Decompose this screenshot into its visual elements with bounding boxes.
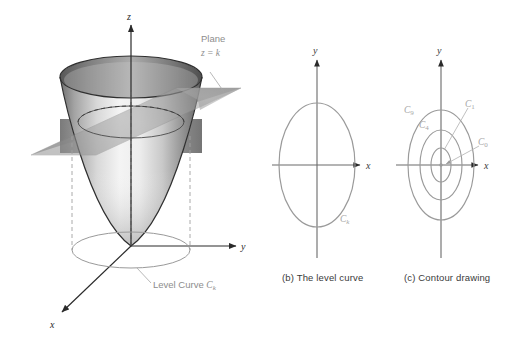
contour-C1-leader-line [444,108,468,150]
caption-panel-c: (c) Contour drawing [404,272,490,283]
panel-c-axis-x-label: x [483,160,489,171]
contour-C4-label: C4 [419,120,429,132]
panel-b-axis-x-label: x [365,160,371,171]
level-curve-label-text: Level Curve [153,279,204,290]
axis-x-label: x [49,319,55,330]
panel-c: x y C9 C4 C1 C0 [396,45,489,258]
level-curve-leader-line [137,268,151,283]
caption-panel-b: (b) The level curve [282,272,363,283]
panel-c-axis-y-label: y [436,45,442,56]
level-curve-subscript: k [213,284,217,292]
panel-b-curve-subscript: k [346,218,350,226]
axis-z-label: z [126,11,131,22]
figure-root: z y x Plane z = k Level Curve Ck [0,0,523,338]
panel-b: x y Ck [272,45,371,258]
plane-label-line2: z = k [200,48,221,58]
axis-x [62,246,131,312]
panel-a: z y x Plane z = k Level Curve Ck [31,11,246,330]
figure-canvas: z y x Plane z = k Level Curve Ck [0,0,523,338]
panel-b-curve-label: Ck [340,214,350,226]
contour-C0 [439,163,442,166]
contour-C9-label: C9 [404,105,414,117]
contour-C1-label: C1 [465,99,475,111]
contour-C0-label: C0 [478,137,488,149]
axis-y-label: y [240,241,246,252]
plane-label-line1: Plane [201,33,225,44]
panel-b-axis-y-label: y [312,45,318,56]
level-curve-label: Level Curve Ck [153,279,217,292]
